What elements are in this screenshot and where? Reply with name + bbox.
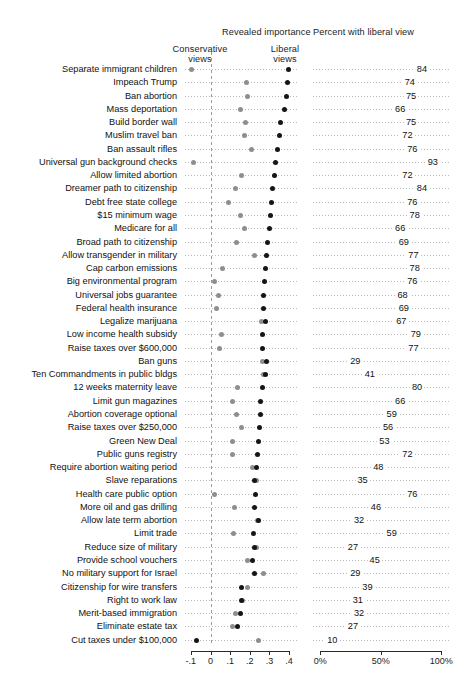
liberal-dot — [261, 306, 266, 311]
row-label-wrap: Ten Commandments in public bldgs — [0, 367, 177, 381]
dot-plot-row: Federal health insurance69 — [0, 301, 462, 315]
liberal-dot — [260, 332, 265, 337]
liberal-dot — [250, 558, 255, 563]
row-label-wrap: Mass deportation — [0, 102, 177, 116]
liberal-dot — [260, 385, 265, 390]
conservative-dot — [230, 452, 235, 457]
dot-plot-row: Right to work law31 — [0, 593, 462, 607]
row-label-wrap: Build border wall — [0, 115, 177, 129]
percent-liberal-value: 72 — [400, 128, 414, 142]
conservative-dot — [212, 492, 217, 497]
leader-line-right — [313, 533, 451, 534]
liberal-dot — [264, 359, 269, 364]
percent-liberal-value: 66 — [393, 221, 407, 235]
dot-plot-row: Slave reparations35 — [0, 473, 462, 487]
leader-line-right — [313, 281, 451, 282]
row-label-wrap: Muslim travel ban — [0, 128, 177, 142]
conservative-dot — [219, 332, 224, 337]
leader-line-left — [185, 480, 297, 481]
row-label-wrap: Allow transgender in military — [0, 248, 177, 262]
percent-liberal-value: 68 — [395, 288, 409, 302]
dot-plot-row: Debt free state college76 — [0, 195, 462, 209]
row-label: Require abortion waiting period — [2, 460, 177, 474]
conservative-dot — [238, 107, 243, 112]
dot-plot-row: Green New Deal53 — [0, 434, 462, 448]
row-label-wrap: Green New Deal — [0, 434, 177, 448]
axis-tick — [191, 651, 192, 655]
percent-liberal-value: 48 — [371, 460, 385, 474]
percent-liberal-value: 78 — [408, 208, 422, 222]
row-label: Cap carbon emissions — [2, 261, 177, 275]
row-label-wrap: Allow late term abortion — [0, 513, 177, 527]
row-label: Cut taxes under $100,000 — [2, 633, 177, 647]
conservative-dot — [189, 67, 194, 72]
leader-line-left — [185, 69, 297, 70]
leader-line-right — [313, 573, 451, 574]
percent-liberal-value: 56 — [381, 420, 395, 434]
row-label: Broad path to citizenship — [2, 235, 177, 249]
percent-liberal-value: 66 — [393, 394, 407, 408]
row-label: Ban abortion — [2, 89, 177, 103]
percent-liberal-value: 72 — [400, 447, 414, 461]
row-label-wrap: 12 weeks maternity leave — [0, 380, 177, 394]
leader-line-right — [313, 295, 451, 296]
axis-tick-label: 100% — [430, 656, 453, 666]
conservative-dot — [233, 186, 238, 191]
leader-line-right — [313, 242, 451, 243]
row-label-wrap: Universal jobs guarantee — [0, 288, 177, 302]
leader-line-right — [313, 149, 451, 150]
row-label: No military support for Israel — [2, 566, 177, 580]
conservative-dot — [242, 226, 247, 231]
leader-line-left — [185, 626, 297, 627]
percent-liberal-value: 78 — [408, 261, 422, 275]
row-label: Right to work law — [2, 593, 177, 607]
percent-liberal-value: 76 — [405, 195, 419, 209]
liberal-dot — [252, 505, 257, 510]
dot-plot-row: Separate immigrant children84 — [0, 62, 462, 76]
row-label-wrap: Health care public option — [0, 487, 177, 501]
liberal-dot — [263, 319, 268, 324]
percent-liberal-value: 39 — [360, 580, 374, 594]
leader-line-left — [185, 96, 297, 97]
leader-line-left — [185, 188, 297, 189]
percent-liberal-value: 53 — [377, 434, 391, 448]
dot-plot-row: Eliminate estate tax27 — [0, 619, 462, 633]
row-label-wrap: Debt free state college — [0, 195, 177, 209]
conservative-dot — [232, 505, 237, 510]
percent-liberal-value: 80 — [410, 380, 424, 394]
dot-plot-row: Cap carbon emissions78 — [0, 261, 462, 275]
liberal-dot — [267, 226, 272, 231]
conservative-dot — [235, 385, 240, 390]
dot-plot-row: Ten Commandments in public bldgs41 — [0, 367, 462, 381]
liberal-dot — [263, 372, 268, 377]
leader-line-left — [185, 401, 297, 402]
conservative-dot — [244, 80, 249, 85]
conservative-dot — [256, 638, 261, 643]
leader-line-left — [185, 454, 297, 455]
row-label-wrap: Limit gun magazines — [0, 394, 177, 408]
dot-plot-row: Health care public option76 — [0, 487, 462, 501]
row-label-wrap: Impeach Trump — [0, 75, 177, 89]
row-label-wrap: Allow limited abortion — [0, 168, 177, 182]
percent-liberal-value: 29 — [348, 354, 362, 368]
percent-liberal-value: 27 — [346, 619, 360, 633]
percent-liberal-value: 69 — [397, 235, 411, 249]
conservative-dot — [212, 279, 217, 284]
leader-line-left — [185, 361, 297, 362]
leader-line-left — [185, 560, 297, 561]
dot-plot-row: Ban assault rifles76 — [0, 142, 462, 156]
leader-line-left — [185, 242, 297, 243]
leader-line-right — [313, 122, 451, 123]
row-label: Universal jobs guarantee — [2, 288, 177, 302]
conservative-dot — [243, 120, 248, 125]
row-label: Big environmental program — [2, 274, 177, 288]
percent-liberal-value: 72 — [400, 168, 414, 182]
legend-conservative: Conservative views — [167, 44, 233, 64]
liberal-dot — [253, 492, 258, 497]
dot-plot-row: 12 weeks maternity leave80 — [0, 380, 462, 394]
percent-liberal-value: 76 — [405, 487, 419, 501]
row-label-wrap: Right to work law — [0, 593, 177, 607]
row-label-wrap: Slave reparations — [0, 473, 177, 487]
row-label-wrap: Raise taxes over $250,000 — [0, 420, 177, 434]
row-label: Limit gun magazines — [2, 394, 177, 408]
